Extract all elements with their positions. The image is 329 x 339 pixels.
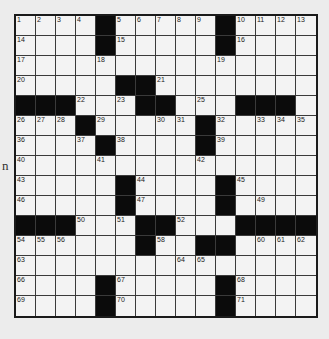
grid-cell[interactable] bbox=[56, 76, 76, 96]
grid-cell[interactable]: 66 bbox=[16, 276, 36, 296]
grid-cell[interactable] bbox=[176, 296, 196, 316]
grid-cell[interactable] bbox=[196, 276, 216, 296]
grid-cell[interactable] bbox=[176, 176, 196, 196]
grid-cell[interactable]: 23 bbox=[116, 96, 136, 116]
grid-cell[interactable]: 30 bbox=[156, 116, 176, 136]
grid-cell[interactable] bbox=[36, 136, 56, 156]
grid-cell[interactable]: 67 bbox=[116, 276, 136, 296]
grid-cell[interactable]: 11 bbox=[256, 16, 276, 36]
grid-cell[interactable] bbox=[216, 96, 236, 116]
grid-cell[interactable] bbox=[276, 276, 296, 296]
grid-cell[interactable]: 9 bbox=[196, 16, 216, 36]
grid-cell[interactable] bbox=[76, 56, 96, 76]
grid-cell[interactable]: 42 bbox=[196, 156, 216, 176]
grid-cell[interactable]: 29 bbox=[96, 116, 116, 136]
grid-cell[interactable] bbox=[96, 76, 116, 96]
grid-cell[interactable] bbox=[156, 256, 176, 276]
grid-cell[interactable]: 39 bbox=[216, 136, 236, 156]
grid-cell[interactable]: 35 bbox=[296, 116, 316, 136]
grid-cell[interactable]: 20 bbox=[16, 76, 36, 96]
grid-cell[interactable] bbox=[176, 96, 196, 116]
grid-cell[interactable]: 55 bbox=[36, 236, 56, 256]
grid-cell[interactable] bbox=[296, 96, 316, 116]
grid-cell[interactable] bbox=[296, 56, 316, 76]
grid-cell[interactable] bbox=[56, 276, 76, 296]
grid-cell[interactable] bbox=[76, 36, 96, 56]
grid-cell[interactable]: 41 bbox=[96, 156, 116, 176]
grid-cell[interactable]: 1 bbox=[16, 16, 36, 36]
grid-cell[interactable] bbox=[176, 196, 196, 216]
grid-cell[interactable]: 56 bbox=[56, 236, 76, 256]
grid-cell[interactable]: 22 bbox=[76, 96, 96, 116]
grid-cell[interactable]: 34 bbox=[276, 116, 296, 136]
grid-cell[interactable] bbox=[156, 156, 176, 176]
grid-cell[interactable] bbox=[96, 196, 116, 216]
grid-cell[interactable] bbox=[276, 76, 296, 96]
grid-cell[interactable] bbox=[36, 76, 56, 96]
grid-cell[interactable] bbox=[136, 276, 156, 296]
grid-cell[interactable]: 51 bbox=[116, 216, 136, 236]
grid-cell[interactable] bbox=[156, 296, 176, 316]
grid-cell[interactable]: 37 bbox=[76, 136, 96, 156]
grid-cell[interactable] bbox=[76, 236, 96, 256]
grid-cell[interactable] bbox=[56, 296, 76, 316]
grid-cell[interactable]: 19 bbox=[216, 56, 236, 76]
grid-cell[interactable] bbox=[276, 56, 296, 76]
grid-cell[interactable]: 47 bbox=[136, 196, 156, 216]
grid-cell[interactable]: 5 bbox=[116, 16, 136, 36]
grid-cell[interactable]: 70 bbox=[116, 296, 136, 316]
grid-cell[interactable]: 8 bbox=[176, 16, 196, 36]
grid-cell[interactable] bbox=[136, 136, 156, 156]
grid-cell[interactable] bbox=[76, 296, 96, 316]
grid-cell[interactable] bbox=[196, 216, 216, 236]
grid-cell[interactable]: 63 bbox=[16, 256, 36, 276]
grid-cell[interactable] bbox=[56, 176, 76, 196]
grid-cell[interactable] bbox=[136, 156, 156, 176]
grid-cell[interactable]: 65 bbox=[196, 256, 216, 276]
grid-cell[interactable] bbox=[256, 276, 276, 296]
grid-cell[interactable] bbox=[36, 36, 56, 56]
grid-cell[interactable] bbox=[256, 156, 276, 176]
grid-cell[interactable] bbox=[36, 256, 56, 276]
grid-cell[interactable] bbox=[156, 36, 176, 56]
grid-cell[interactable] bbox=[76, 176, 96, 196]
grid-cell[interactable] bbox=[196, 76, 216, 96]
grid-cell[interactable] bbox=[176, 76, 196, 96]
grid-cell[interactable]: 71 bbox=[236, 296, 256, 316]
grid-cell[interactable] bbox=[256, 36, 276, 56]
grid-cell[interactable] bbox=[36, 196, 56, 216]
grid-cell[interactable] bbox=[256, 56, 276, 76]
grid-cell[interactable] bbox=[256, 76, 276, 96]
grid-cell[interactable] bbox=[76, 276, 96, 296]
grid-cell[interactable] bbox=[256, 136, 276, 156]
grid-cell[interactable] bbox=[276, 36, 296, 56]
grid-cell[interactable] bbox=[136, 116, 156, 136]
grid-cell[interactable] bbox=[96, 176, 116, 196]
grid-cell[interactable]: 4 bbox=[76, 16, 96, 36]
grid-cell[interactable]: 31 bbox=[176, 116, 196, 136]
grid-cell[interactable]: 25 bbox=[196, 96, 216, 116]
grid-cell[interactable] bbox=[296, 296, 316, 316]
grid-cell[interactable] bbox=[156, 56, 176, 76]
grid-cell[interactable] bbox=[76, 256, 96, 276]
grid-cell[interactable]: 28 bbox=[56, 116, 76, 136]
grid-cell[interactable] bbox=[56, 56, 76, 76]
grid-cell[interactable]: 13 bbox=[296, 16, 316, 36]
grid-cell[interactable] bbox=[56, 36, 76, 56]
grid-cell[interactable]: 27 bbox=[36, 116, 56, 136]
grid-cell[interactable] bbox=[216, 156, 236, 176]
grid-cell[interactable] bbox=[156, 136, 176, 156]
grid-cell[interactable] bbox=[76, 196, 96, 216]
grid-cell[interactable]: 7 bbox=[156, 16, 176, 36]
grid-cell[interactable] bbox=[296, 156, 316, 176]
grid-cell[interactable] bbox=[296, 36, 316, 56]
grid-cell[interactable]: 46 bbox=[16, 196, 36, 216]
grid-cell[interactable]: 10 bbox=[236, 16, 256, 36]
grid-cell[interactable] bbox=[296, 136, 316, 156]
grid-cell[interactable] bbox=[116, 56, 136, 76]
grid-cell[interactable] bbox=[236, 236, 256, 256]
grid-cell[interactable] bbox=[276, 196, 296, 216]
grid-cell[interactable]: 38 bbox=[116, 136, 136, 156]
grid-cell[interactable] bbox=[196, 176, 216, 196]
grid-cell[interactable]: 68 bbox=[236, 276, 256, 296]
